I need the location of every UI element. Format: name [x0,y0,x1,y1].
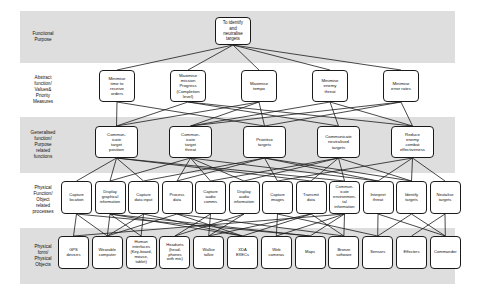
node-label: Bronze software [330,248,357,258]
node-label: Capture location [63,193,90,203]
node-label: Transmit data [298,193,325,203]
node-label: Sensors [364,250,391,255]
node-gf-4[interactable]: Communicate neutralised targets [317,126,360,158]
node-label: Minimise error rates [385,81,417,91]
node-label: Capture data input [130,193,157,203]
node-pf-3[interactable]: Capture data input [128,181,159,214]
node-pf-7[interactable]: Capture images [262,181,293,214]
node-po-12[interactable]: Commander [430,236,461,269]
node-label: Display graphical information [97,190,124,205]
node-label: Headsets (head- phones with mic) [161,243,188,263]
node-gf-2[interactable]: Commun- icate target threat [169,126,212,158]
node-label: Reduce enemy combat effectiveness [393,132,432,152]
node-label: XDA EXECs [229,248,256,258]
node-label: Commun- icate target position [97,132,136,152]
level-label-generalised-function: Generalised function/ Purpose related fu… [22,130,64,161]
node-label: Commun- icate target threat [171,132,210,152]
node-pf-11[interactable]: Identify targets [396,181,427,214]
node-fp-1[interactable]: To identify and neutralise targets [215,17,251,45]
node-label: Commun- icate environmen- tal informatio… [331,185,358,210]
node-label: Prioritise targets [245,137,284,147]
node-af-3[interactable]: Maximise tempo [241,70,277,102]
node-gf-3[interactable]: Prioritise targets [243,126,286,158]
node-label: Capture images [264,193,291,203]
node-po-5[interactable]: Walkie talkie [193,236,224,269]
node-po-10[interactable]: Sensors [362,236,393,269]
node-label: Display audio information [231,190,258,205]
node-pf-5[interactable]: Capture audio comms [195,181,226,214]
node-label: Capture audio comms [197,190,224,205]
node-label: Human interfaces (Key-board, mouse, tabl… [128,240,155,265]
node-po-1[interactable]: GPS devices [58,236,89,269]
node-pf-10[interactable]: Interpret threat [363,181,394,214]
node-label: Commander [432,250,459,255]
node-label: Maximise tempo [243,81,275,91]
node-pf-12[interactable]: Neutalise targets [430,181,461,214]
node-pf-2[interactable]: Display graphical information [95,181,126,214]
node-af-1[interactable]: Minimise time to receive orders [99,70,135,102]
level-label-abstract-function: Abstract function/ Values& Priority Meas… [22,75,64,106]
node-label: Communicate neutralised targets [319,134,358,149]
node-af-5[interactable]: Minimise error rates [383,70,419,102]
abstraction-hierarchy-diagram: Functional PurposeAbstract function/ Val… [0,0,477,293]
band-generalised-function [20,117,455,173]
node-pf-4[interactable]: Process data [162,181,193,214]
node-label: Maps [297,250,324,255]
node-pf-6[interactable]: Display audio information [229,181,260,214]
level-label-functional-purpose: Functional Purpose [22,31,64,43]
node-pf-8[interactable]: Transmit data [296,181,327,214]
node-gf-5[interactable]: Reduce enemy combat effectiveness [391,126,434,158]
node-label: Minimise time to receive orders [101,76,133,96]
node-po-6[interactable]: XDA EXECs [227,236,258,269]
node-label: Walkie talkie [195,248,222,258]
node-label: GPS devices [60,248,87,258]
node-label: Minimise enemy threat [314,78,346,93]
node-po-3[interactable]: Human interfaces (Key-board, mouse, tabl… [126,236,157,269]
node-po-11[interactable]: Effecters [396,236,427,269]
node-label: Neutalise targets [432,193,459,203]
node-po-9[interactable]: Bronze software [328,236,359,269]
node-po-8[interactable]: Maps [295,236,326,269]
node-label: Web cameras [263,248,290,258]
node-po-7[interactable]: Web cameras [261,236,292,269]
node-po-4[interactable]: Headsets (head- phones with mic) [159,236,190,269]
node-label: Process data [164,193,191,203]
node-af-4[interactable]: Minimise enemy threat [312,70,348,102]
node-label: Identify targets [398,193,425,203]
node-label: Interpret threat [365,193,392,203]
node-label: Maximise mission Progress (Completion le… [172,73,204,98]
node-label: Wearable computer [94,248,121,258]
node-af-2[interactable]: Maximise mission Progress (Completion le… [170,70,206,102]
node-label: Effecters [398,250,425,255]
node-pf-9[interactable]: Commun- icate environmen- tal informatio… [329,181,360,214]
node-pf-1[interactable]: Capture location [61,181,92,214]
level-label-physical-function: Physical Function/ Object related proces… [22,185,64,216]
node-po-2[interactable]: Wearable computer [92,236,123,269]
node-gf-1[interactable]: Commun- icate target position [95,126,138,158]
node-label: To identify and neutralise targets [217,20,249,42]
